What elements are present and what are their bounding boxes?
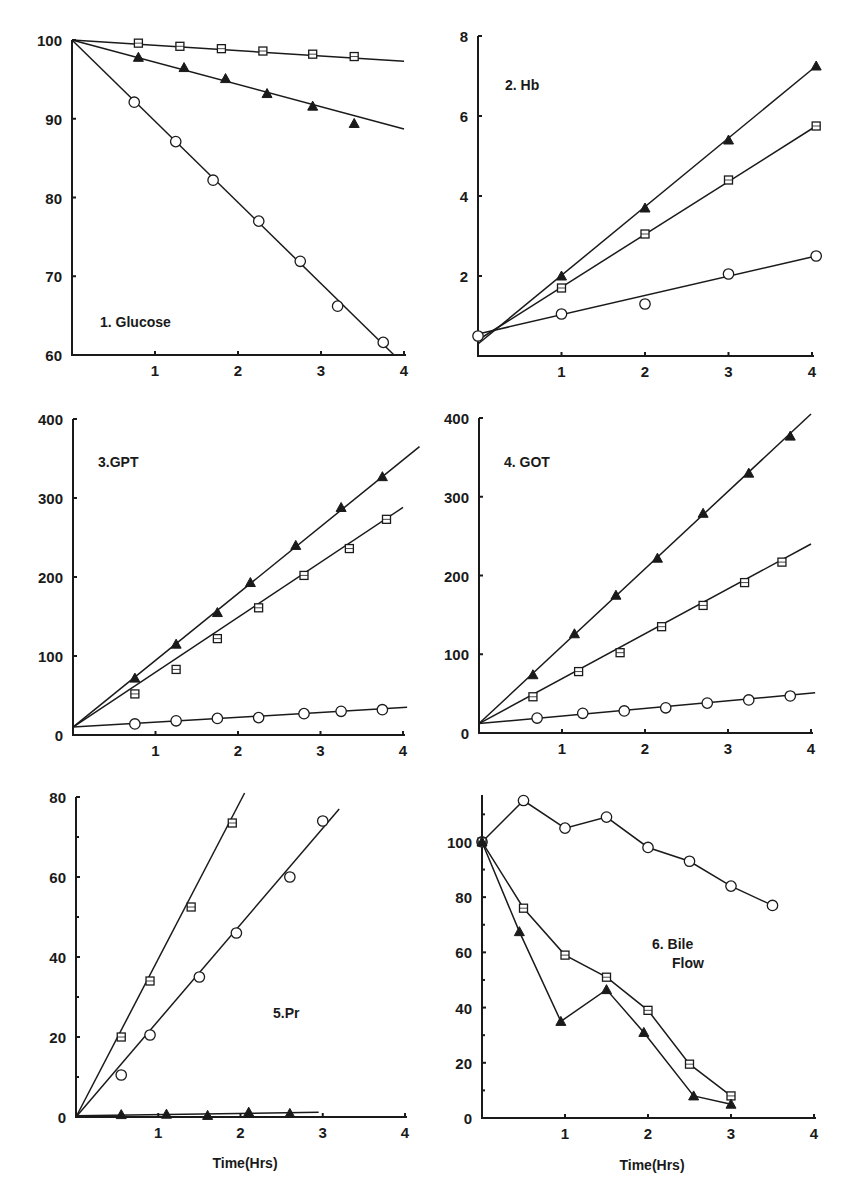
y-tick-label: 80 — [45, 190, 62, 207]
x-tick-label: 3 — [724, 363, 732, 380]
circle-marker — [811, 251, 821, 261]
circle-marker — [378, 337, 388, 347]
x-tick-label: 3 — [319, 1124, 327, 1141]
y-tick-label: 300 — [444, 489, 469, 506]
x-axis-title: Time(Hrs) — [212, 1155, 277, 1171]
x-tick-label: 4 — [401, 1124, 410, 1141]
circle-marker — [336, 706, 346, 716]
circle-marker — [253, 712, 263, 722]
y-tick-label: 60 — [455, 944, 472, 961]
circle-marker — [208, 175, 218, 185]
panel-title: 1. Glucose — [100, 314, 171, 330]
x-tick-label: 1 — [151, 362, 159, 379]
circle-marker — [129, 97, 139, 107]
series-square — [72, 39, 404, 61]
y-tick-label: 6 — [460, 108, 468, 125]
circle-marker — [231, 928, 241, 938]
x-tick-label: 1 — [557, 363, 565, 380]
circle-marker — [377, 705, 387, 715]
circle-marker — [785, 691, 795, 701]
panel-p2: 123424682. Hb — [460, 28, 822, 380]
circle-marker — [744, 695, 754, 705]
circle-marker — [130, 719, 140, 729]
fit-line — [76, 1112, 319, 1116]
triangle-marker — [221, 74, 231, 83]
fit-line — [76, 809, 339, 1117]
y-tick-label: 40 — [49, 949, 66, 966]
circle-marker — [619, 706, 629, 716]
triangle-marker — [203, 1110, 213, 1119]
panel-p3: 123401002003004003.GPT — [38, 411, 420, 759]
x-tick-label: 3 — [317, 362, 325, 379]
fit-line — [478, 256, 816, 334]
y-tick-label: 8 — [460, 28, 468, 45]
circle-marker — [145, 1030, 155, 1040]
y-tick-label: 60 — [45, 347, 62, 364]
y-tick-label: 0 — [55, 727, 63, 744]
triangle-marker — [724, 135, 734, 144]
y-tick-label: 40 — [455, 1000, 472, 1017]
triangle-marker — [569, 629, 579, 638]
circle-marker — [332, 301, 342, 311]
y-tick-label: 300 — [38, 490, 63, 507]
y-tick-label: 80 — [49, 789, 66, 806]
circle-marker — [601, 812, 611, 822]
chart-canvas: 1234607080901001. Glucose123424682. Hb12… — [0, 0, 847, 1193]
triangle-marker — [245, 578, 255, 587]
x-tick-label: 2 — [236, 1124, 244, 1141]
circle-marker — [723, 269, 733, 279]
series-square — [479, 544, 811, 724]
circle-marker — [556, 309, 566, 319]
circle-marker — [194, 972, 204, 982]
y-tick-label: 100 — [37, 32, 62, 49]
x-tick-label: 2 — [641, 363, 649, 380]
circle-marker — [578, 708, 588, 718]
panel-title: 5.Pr — [273, 1005, 300, 1021]
circle-marker — [473, 331, 483, 341]
x-tick-label: 1 — [151, 742, 159, 759]
panel-p5: 12340204060805.PrTime(Hrs) — [49, 789, 410, 1171]
y-tick-label: 100 — [444, 646, 469, 663]
x-tick-label: 1 — [154, 1124, 162, 1141]
triangle-marker — [528, 670, 538, 679]
circle-marker — [702, 698, 712, 708]
fit-line — [72, 40, 394, 355]
fit-line — [73, 707, 407, 727]
circle-marker — [684, 856, 694, 866]
y-tick-label: 400 — [444, 410, 469, 427]
series-square — [76, 793, 245, 1117]
triangle-marker — [514, 927, 524, 936]
y-tick-label: 0 — [461, 725, 469, 742]
triangle-marker — [556, 1016, 566, 1025]
x-tick-label: 3 — [727, 1125, 735, 1142]
triangle-marker — [244, 1107, 254, 1116]
x-tick-label: 1 — [558, 740, 566, 757]
triangle-marker — [785, 431, 795, 440]
circle-marker — [661, 703, 671, 713]
circle-marker — [726, 881, 736, 891]
fit-line — [76, 793, 245, 1117]
circle-marker — [640, 299, 650, 309]
y-tick-label: 90 — [45, 111, 62, 128]
y-tick-label: 200 — [444, 568, 469, 585]
y-tick-label: 70 — [45, 268, 62, 285]
series-circle — [76, 809, 339, 1117]
circle-marker — [560, 823, 570, 833]
circle-marker — [254, 216, 264, 226]
series-circle — [73, 705, 407, 730]
y-tick-label: 20 — [455, 1055, 472, 1072]
x-tick-label: 2 — [644, 1125, 652, 1142]
circle-marker — [285, 872, 295, 882]
circle-marker — [518, 795, 528, 805]
circle-marker — [767, 900, 777, 910]
y-tick-label: 80 — [455, 889, 472, 906]
series-triangle — [73, 447, 420, 727]
x-tick-label: 4 — [810, 1125, 819, 1142]
circle-marker — [295, 256, 305, 266]
circle-marker — [643, 842, 653, 852]
y-tick-label: 4 — [460, 188, 469, 205]
y-tick-label: 400 — [38, 411, 63, 428]
circle-marker — [212, 713, 222, 723]
x-tick-label: 3 — [316, 742, 324, 759]
y-tick-label: 2 — [460, 268, 468, 285]
